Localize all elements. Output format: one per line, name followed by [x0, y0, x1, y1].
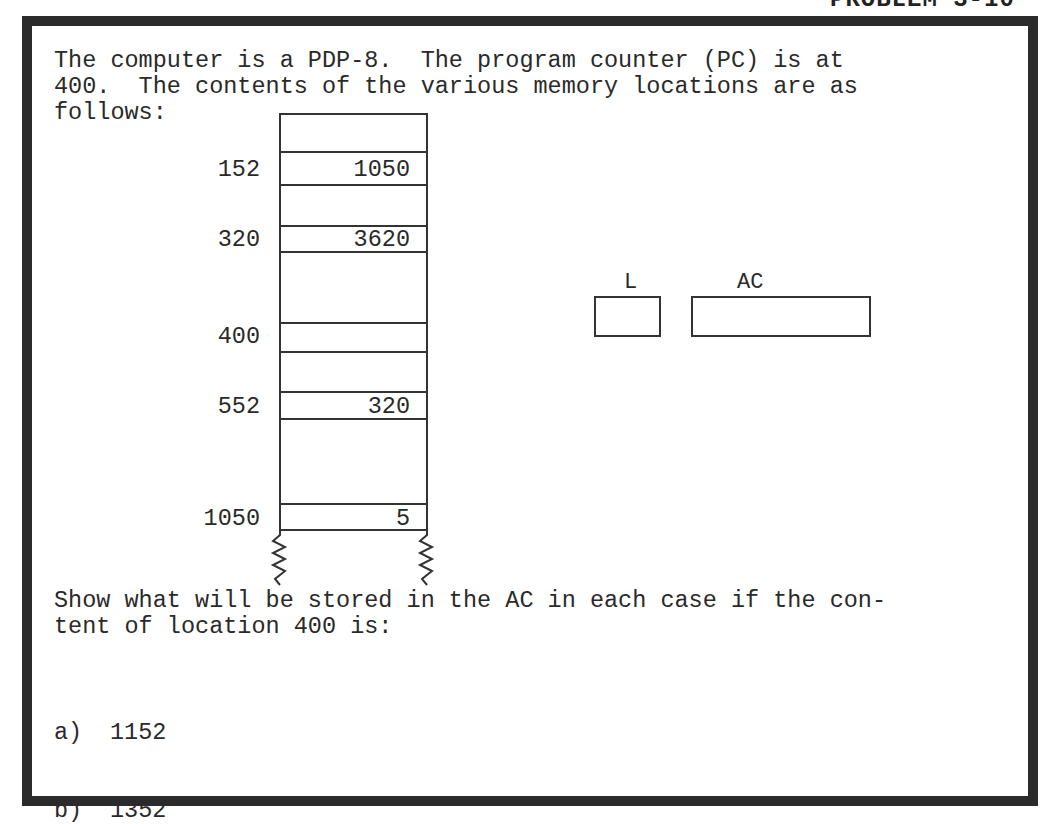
memory-divider	[279, 322, 428, 324]
question-line: tent of location 400 is:	[54, 613, 392, 640]
memory-value: 1050	[290, 156, 410, 183]
link-register-box	[594, 296, 661, 337]
break-squiggle-left-icon	[270, 529, 290, 587]
ac-register-box	[691, 296, 871, 337]
problem-frame	[22, 16, 1038, 806]
memory-value: 5	[290, 505, 410, 532]
answer-item: b)1352	[54, 798, 166, 824]
memory-value: 320	[290, 393, 410, 420]
intro-line: 400. The contents of the various memory …	[54, 73, 858, 100]
memory-address: 552	[178, 393, 260, 420]
intro-line: follows:	[54, 99, 167, 126]
answer-letter: b)	[54, 798, 110, 824]
memory-address: 400	[178, 323, 260, 350]
memory-address: 320	[178, 226, 260, 253]
memory-divider	[279, 351, 428, 353]
answer-list: a)1152 b)1352 c)1552 d)1752	[54, 668, 166, 824]
intro-line: The computer is a PDP-8. The program cou…	[54, 47, 844, 74]
intro-text: The computer is a PDP-8. The program cou…	[54, 48, 858, 126]
question-line: Show what will be stored in the AC in ea…	[54, 587, 886, 614]
memory-address: 152	[178, 156, 260, 183]
memory-divider	[279, 151, 428, 153]
memory-address: 1050	[178, 505, 260, 532]
problem-header: PROBLEM 3-10	[830, 0, 1015, 13]
ac-label: AC	[737, 270, 763, 295]
break-squiggle-right-icon	[417, 529, 437, 587]
link-label: L	[624, 270, 637, 295]
memory-divider	[279, 184, 428, 186]
memory-value: 3620	[290, 226, 410, 253]
question-text: Show what will be stored in the AC in ea…	[54, 588, 886, 640]
answer-value: 1152	[110, 719, 166, 746]
answer-value: 1352	[110, 797, 166, 824]
answer-letter: a)	[54, 720, 110, 746]
answer-item: a)1152	[54, 720, 166, 746]
